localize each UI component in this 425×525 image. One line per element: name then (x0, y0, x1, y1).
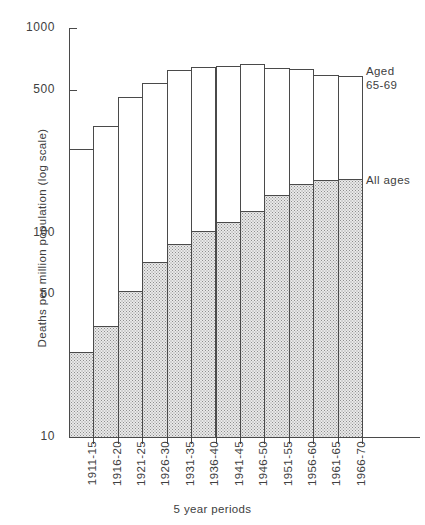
x-tick-label: 1966-70 (355, 441, 367, 486)
x-tick-label: 1926-30 (159, 441, 171, 486)
x-tick-label: 1911-15 (86, 441, 98, 485)
bar-all-ages (216, 222, 241, 438)
y-tick-label: 50 (40, 286, 69, 300)
chart-canvas: Deaths per million population (log scale… (0, 0, 425, 525)
annotation-all-ages: All ages (366, 173, 410, 187)
bar-all-ages (264, 195, 289, 438)
bar-all-ages (118, 291, 143, 438)
annotation-aged-65-69: Aged 65-69 (366, 64, 397, 92)
bar-all-ages (142, 262, 167, 438)
x-tick-label: 1961-65 (330, 441, 342, 486)
x-tick-label: 1946-50 (257, 441, 269, 486)
x-tick-label: 1916-20 (111, 441, 123, 486)
y-tick-label: 500 (33, 82, 69, 96)
bar-all-ages (313, 180, 338, 438)
x-tick-label: 1951-55 (282, 441, 294, 486)
x-tick-label: 1931-35 (184, 441, 196, 486)
x-axis-title: 5 year periods (0, 503, 425, 515)
bar-all-ages (93, 326, 118, 438)
bar-all-ages (338, 179, 363, 438)
bar-all-ages (69, 352, 94, 438)
y-tick-label: 100 (33, 225, 69, 239)
bar-all-ages (240, 211, 265, 438)
x-tick-label: 1936-40 (208, 441, 220, 486)
x-tick-label: 1921-25 (135, 441, 147, 486)
bar-all-ages (289, 184, 314, 438)
y-tick-label: 10 (40, 429, 69, 443)
y-tick (69, 28, 77, 29)
x-tick-label: 1941-45 (233, 441, 245, 486)
y-tick-label: 1000 (26, 20, 69, 34)
bar-all-ages (167, 244, 192, 438)
y-tick (69, 90, 77, 91)
bar-all-ages (191, 231, 216, 438)
x-tick-label: 1956-60 (306, 441, 318, 486)
